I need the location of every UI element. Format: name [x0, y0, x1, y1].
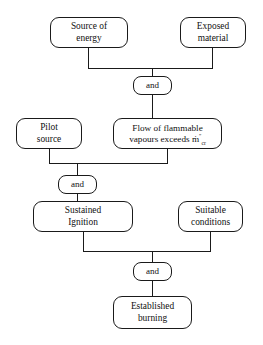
- node-flow-of-flammable-vapours: Flow of flammable vapours exceeds ṁ″cr: [113, 118, 222, 149]
- node-pilot-source-label: Pilot source: [37, 122, 61, 144]
- gate-and-1: and: [133, 76, 172, 95]
- connector-suitable-conditions-down: [210, 232, 211, 251]
- mass-flux-base: m: [192, 134, 199, 144]
- connector-bus-middle-to-gate2: [77, 163, 78, 175]
- node-sustained-ignition: Sustained Ignition: [33, 201, 133, 232]
- connector-source-of-energy-down: [88, 48, 89, 68]
- node-exposed-material: Exposed material: [180, 17, 246, 48]
- connector-pilot-source-down: [49, 149, 50, 163]
- gate-and-3: and: [133, 262, 172, 281]
- connector-flow-down: [167, 149, 168, 163]
- gate-and-2-label: and: [71, 179, 84, 190]
- node-suitable-conditions: Suitable conditions: [178, 201, 243, 232]
- node-established-burning: Established burning: [113, 296, 192, 329]
- connector-bus-middle: [49, 163, 168, 164]
- gate-and-3-label: and: [146, 266, 159, 277]
- gate-and-1-label: and: [146, 80, 159, 91]
- node-suitable-conditions-label: Suitable conditions: [191, 205, 230, 227]
- fault-tree-diagram: Source of energy Exposed material and Pi…: [0, 0, 263, 345]
- node-source-of-energy: Source of energy: [50, 17, 128, 48]
- mass-flux-subscript: cr: [201, 139, 205, 145]
- connector-gate1-to-flow: [152, 95, 153, 118]
- gate-and-2: and: [58, 175, 97, 194]
- node-source-of-energy-label: Source of energy: [71, 21, 107, 43]
- connector-bus-top-to-gate1: [152, 68, 153, 76]
- node-flow-of-flammable-vapours-label: Flow of flammable vapours exceeds ṁ″cr: [129, 123, 206, 145]
- flow-line-2-prefix: vapours exceeds: [129, 134, 192, 144]
- connector-exposed-material-down: [212, 48, 213, 68]
- flow-line-1: Flow of flammable: [132, 123, 202, 133]
- connector-sustained-ignition-down: [83, 232, 84, 251]
- node-sustained-ignition-label: Sustained Ignition: [65, 205, 101, 227]
- node-exposed-material-label: Exposed material: [197, 21, 229, 43]
- connector-gate3-to-established-burning: [152, 281, 153, 296]
- connector-bus-bottom: [83, 251, 211, 252]
- node-established-burning-label: Established burning: [131, 301, 174, 323]
- mass-flux-superscript: ″: [199, 132, 201, 138]
- connector-bus-top: [88, 68, 213, 69]
- mass-flux-symbol: ṁ″cr: [192, 134, 206, 144]
- node-pilot-source: Pilot source: [16, 118, 82, 149]
- connector-bus-bottom-to-gate3: [152, 251, 153, 262]
- connector-gate2-to-sustained-ignition: [77, 194, 78, 201]
